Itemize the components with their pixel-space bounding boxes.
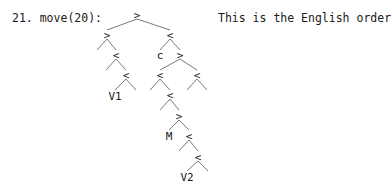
tree-node: < [123,69,130,82]
tree-node: < [194,69,201,82]
tree-node: < [167,89,174,102]
tree-node: > [177,49,184,62]
tree-node: c [157,49,164,62]
tree-node: > [134,9,141,22]
tree-node: M [166,130,173,143]
tree-node: < [186,130,193,143]
tree-node: V1 [108,90,121,103]
tree-node: < [167,29,174,42]
tree-nodes: >><<c><<<V1<>M<<V2 [104,9,202,184]
tree-node: > [104,29,111,42]
tree-node: V2 [180,171,193,184]
tree-edge [107,19,137,30]
tree-edge [137,19,170,30]
tree-node: < [195,151,202,164]
tree-node: < [157,69,164,82]
tree-node: > [176,110,183,123]
tree-node: < [113,49,120,62]
